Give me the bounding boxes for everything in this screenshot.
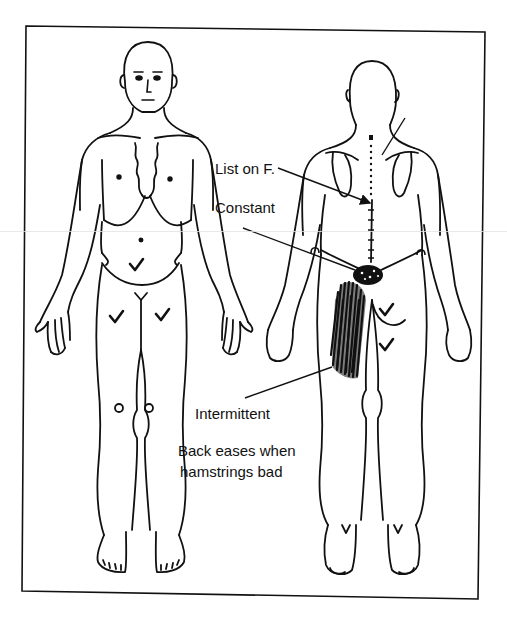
constant-arrow [243, 228, 355, 270]
intermittent-area-fill [332, 282, 366, 378]
body-chart-drawing [0, 0, 507, 618]
annotation-back-eases: Back eases when [178, 441, 296, 460]
annotation-constant: Constant [215, 198, 275, 217]
annotation-list-on-f: List on F. [215, 159, 275, 178]
elbow-arc-icon [417, 250, 425, 255]
spine-dots [369, 135, 373, 195]
body-chart-figure: List on F. Constant Intermittent Back ea… [0, 0, 507, 618]
intermittent-arrow [245, 367, 332, 398]
constant-pain-area [353, 265, 383, 285]
check-icon [380, 339, 393, 350]
check-icon [130, 259, 143, 270]
front-face-features [134, 72, 162, 100]
check-icon [380, 304, 393, 315]
front-body-outline [36, 42, 253, 572]
check-icon [110, 311, 123, 322]
annotation-hamstrings: hamstrings bad [180, 462, 283, 481]
knee-circle-icon [115, 404, 123, 412]
check-icon [156, 309, 169, 320]
knee-circle-icon [145, 404, 153, 412]
list-line-upper [382, 118, 405, 155]
figure-frame [22, 26, 485, 599]
annotation-intermittent: Intermittent [195, 404, 270, 423]
